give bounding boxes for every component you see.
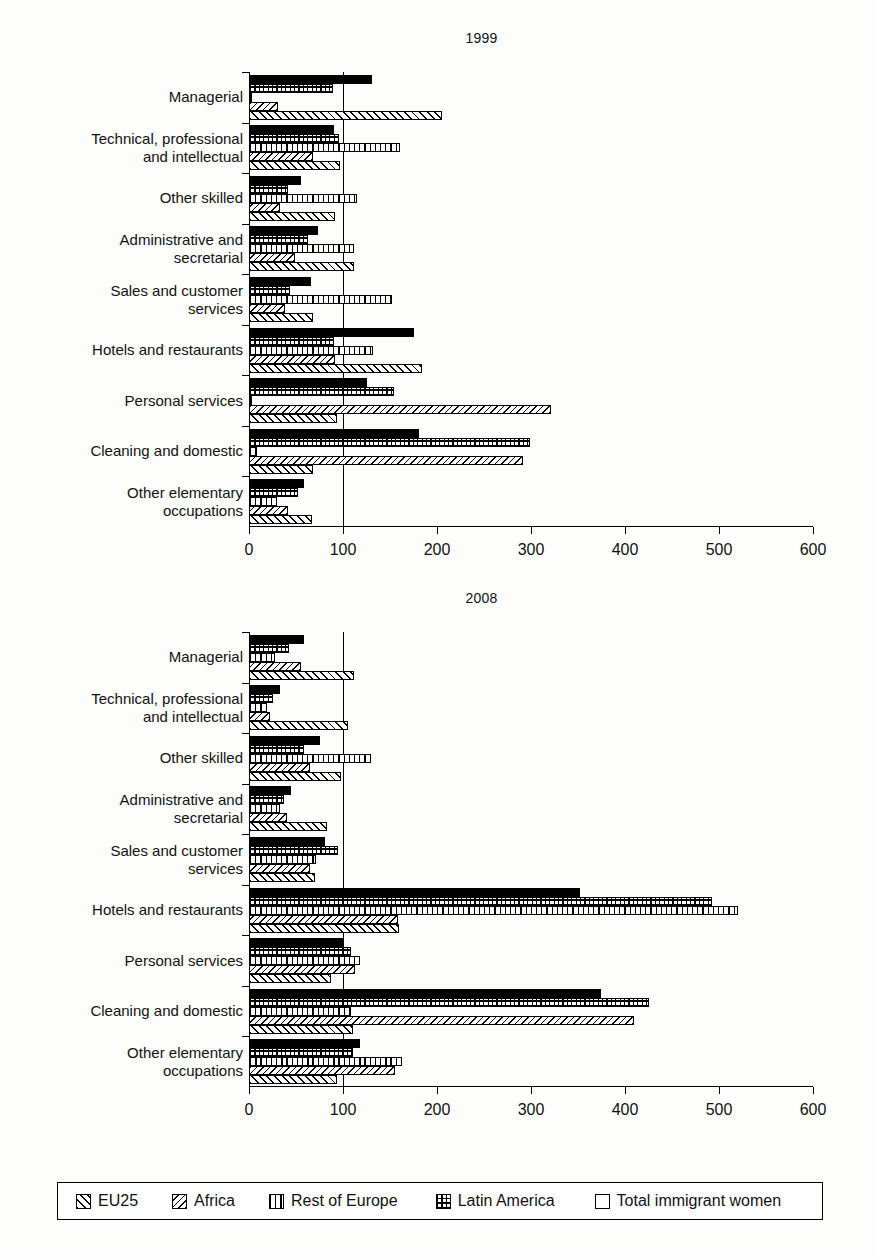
legend-swatch-icon: [436, 1194, 451, 1209]
legend-label: Rest of Europe: [291, 1193, 398, 1209]
category-tick: [242, 885, 249, 886]
bar: [249, 328, 414, 337]
category-tick: [242, 1036, 249, 1037]
legend-swatch-icon: [269, 1194, 284, 1209]
x-tick: [343, 527, 344, 534]
panel-title-2008: 2008: [0, 590, 877, 606]
bar: [249, 653, 275, 662]
panel-title-2008-text: 2008: [466, 590, 498, 606]
category-label: Cleaning and domestic: [28, 442, 243, 460]
bar: [249, 134, 339, 143]
category-tick: [242, 224, 249, 225]
category-label: Other elementary occupations: [28, 1044, 243, 1080]
category-tick: [242, 834, 249, 835]
bar: [249, 703, 267, 712]
bar: [249, 286, 290, 295]
bar: [249, 515, 312, 524]
bar: [249, 346, 373, 355]
legend-label: Africa: [194, 1193, 235, 1209]
bar: [249, 712, 270, 721]
x-tick-label: 200: [424, 1101, 451, 1119]
bar: [249, 763, 310, 772]
x-tick: [437, 527, 438, 534]
bar: [249, 1007, 351, 1016]
bar: [249, 295, 392, 304]
category-label: Managerial: [28, 88, 243, 106]
bar: [249, 102, 278, 111]
bar: [249, 337, 334, 346]
x-tick: [343, 1087, 344, 1094]
legend-item-rest-of-europe: Rest of Europe: [269, 1193, 398, 1209]
x-tick-label: 200: [424, 541, 451, 559]
bar: [249, 694, 273, 703]
bar: [249, 185, 288, 194]
bar: [249, 786, 291, 795]
category-label: Other skilled: [28, 749, 243, 767]
bar: [249, 143, 400, 152]
bar: [249, 447, 257, 456]
bar: [249, 465, 313, 474]
x-tick-label: 500: [706, 1101, 733, 1119]
bar: [249, 235, 308, 244]
bar: [249, 262, 354, 271]
bar: [249, 1075, 337, 1084]
bar: [249, 888, 580, 897]
x-tick-label: 300: [518, 1101, 545, 1119]
bar: [249, 906, 738, 915]
bar: [249, 873, 315, 882]
category-label: Cleaning and domestic: [28, 1002, 243, 1020]
bar: [249, 813, 287, 822]
category-tick: [242, 123, 249, 124]
x-tick-label: 400: [612, 541, 639, 559]
category-tick: [242, 683, 249, 684]
category-tick: [242, 173, 249, 174]
chart-figure: 1999 ManagerialTechnical, professional a…: [0, 0, 877, 1258]
x-tick: [719, 527, 720, 534]
bar: [249, 244, 354, 253]
bar: [249, 745, 304, 754]
category-label: Personal services: [28, 952, 243, 970]
x-tick: [813, 527, 814, 534]
bar: [249, 313, 313, 322]
category-tick: [242, 426, 249, 427]
x-tick: [719, 1087, 720, 1094]
category-tick: [242, 325, 249, 326]
bar: [249, 685, 280, 694]
legend-swatch-icon: [595, 1194, 610, 1209]
panel-title-1999: 1999: [0, 30, 877, 46]
bar: [249, 75, 372, 84]
bar: [249, 405, 551, 414]
plot-area-2008: 0100200300400500600: [249, 632, 813, 1087]
bar: [249, 947, 351, 956]
bar: [249, 364, 422, 373]
category-label: Other elementary occupations: [28, 484, 243, 520]
bar: [249, 176, 301, 185]
bar: [249, 671, 354, 680]
bar: [249, 203, 280, 212]
x-tick: [249, 1087, 250, 1094]
bar: [249, 1066, 395, 1075]
plot-area-1999: 0100200300400500600: [249, 72, 813, 527]
legend-item-eu25: EU25: [76, 1193, 138, 1209]
legend-label: EU25: [98, 1193, 138, 1209]
x-tick: [249, 527, 250, 534]
chart-panel-2008: 2008 ManagerialTechnical, professional a…: [0, 590, 877, 1130]
bar: [249, 989, 601, 998]
category-tick: [242, 935, 249, 936]
bar: [249, 194, 357, 203]
legend-item-total-immigrant-women: Total immigrant women: [595, 1193, 782, 1209]
bar: [249, 355, 335, 364]
x-tick-label: 500: [706, 541, 733, 559]
legend-item-africa: Africa: [172, 1193, 235, 1209]
bar: [249, 111, 442, 120]
bar: [249, 915, 398, 924]
bar: [249, 938, 343, 947]
bar: [249, 456, 523, 465]
bar: [249, 506, 288, 515]
panel-title-1999-text: 1999: [466, 30, 498, 46]
bar: [249, 897, 712, 906]
legend-label: Latin America: [458, 1193, 555, 1209]
category-label: Technical, professional and intellectual: [28, 690, 243, 726]
bar: [249, 822, 327, 831]
bar: [249, 837, 325, 846]
